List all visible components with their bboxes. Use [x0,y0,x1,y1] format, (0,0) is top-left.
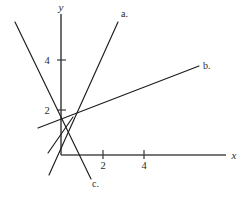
y-tick-label-2: 2 [44,105,49,116]
x-tick-label-4: 4 [141,160,147,171]
axis-names-group: y x [58,1,237,161]
x-axis-label: x [231,149,237,161]
axes-group [61,14,226,155]
plot-canvas: 4 2 2 4 y x a. b. c. [0,0,249,197]
y-tick-label-4: 4 [44,55,50,66]
curve-label-a: a. [121,8,128,19]
tick-marks-group [57,60,144,159]
line-a [49,22,118,175]
line-graph-figure: 4 2 2 4 y x a. b. c. [0,0,249,197]
curve-labels-group: a. b. c. [92,8,211,189]
curve-label-c: c. [92,178,99,189]
x-tick-label-2: 2 [100,160,105,171]
y-axis-label: y [58,1,64,13]
curve-label-b: b. [203,60,211,71]
line-c [15,22,91,179]
